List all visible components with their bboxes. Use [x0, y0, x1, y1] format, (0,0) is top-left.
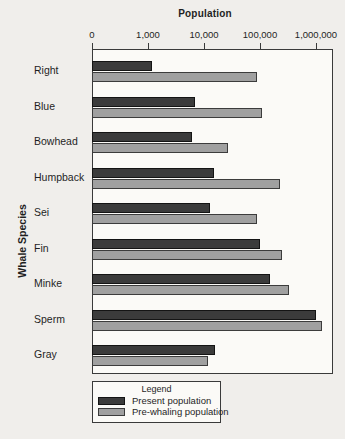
bar-present-population — [92, 274, 270, 284]
category-label: Fin — [34, 242, 90, 254]
legend-title: Legend — [93, 384, 220, 394]
category-label: Bowhead — [34, 135, 90, 147]
bar-present-population — [92, 61, 152, 71]
bar-prewhaling-population — [92, 179, 280, 189]
bar-present-population — [92, 97, 195, 107]
legend-item-present: Present population — [98, 396, 220, 405]
bar-prewhaling-population — [92, 321, 322, 331]
legend: Legend Present population Pre-whaling po… — [92, 381, 221, 423]
x-axis-tick-label: 1,000 — [136, 29, 160, 40]
bar-prewhaling-population — [92, 143, 228, 153]
whale-population-figure: Population 01,00010,000100,0001,000,000 … — [0, 0, 345, 439]
category-label: Sei — [34, 206, 90, 218]
legend-label-present: Present population — [132, 395, 211, 406]
present-population-swatch — [98, 397, 125, 405]
category-label: Gray — [34, 348, 90, 360]
bar-prewhaling-population — [92, 214, 257, 224]
legend-label-prewhaling: Pre-whaling population — [132, 406, 229, 417]
category-label: Blue — [34, 100, 90, 112]
bar-present-population — [92, 132, 192, 142]
category-label: Right — [34, 64, 90, 76]
bar-present-population — [92, 239, 260, 249]
x-axis-tick-label: 1,000,000 — [295, 29, 337, 40]
category-label: Humpback — [34, 171, 90, 183]
bar-present-population — [92, 310, 316, 320]
legend-item-prewhaling: Pre-whaling population — [98, 407, 220, 416]
x-axis-tick-label: 100,000 — [243, 29, 277, 40]
bar-prewhaling-population — [92, 356, 208, 366]
prewhaling-population-swatch — [98, 408, 125, 416]
bar-prewhaling-population — [92, 72, 257, 82]
category-label: Sperm — [34, 313, 90, 325]
category-label: Minke — [34, 277, 90, 289]
bar-present-population — [92, 345, 215, 355]
bar-prewhaling-population — [92, 285, 289, 295]
bar-present-population — [92, 203, 210, 213]
x-axis-tick-label: 0 — [89, 29, 94, 40]
bar-prewhaling-population — [92, 108, 262, 118]
bar-prewhaling-population — [92, 250, 282, 260]
x-axis-title: Population — [178, 8, 232, 19]
x-axis-tick-label: 10,000 — [189, 29, 218, 40]
y-axis-title: Whale Species — [16, 204, 28, 278]
bar-present-population — [92, 168, 214, 178]
